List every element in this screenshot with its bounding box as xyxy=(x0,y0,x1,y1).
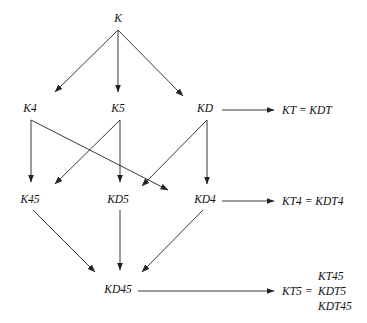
node-kd5: KD5 xyxy=(106,193,129,205)
edges-group xyxy=(31,30,207,272)
edge-k-to-kd xyxy=(118,30,183,96)
node-kd4: KD4 xyxy=(193,193,216,205)
edge-k45-to-kd45 xyxy=(33,210,95,272)
node-k5: K5 xyxy=(110,102,125,114)
equivalent-system-kdt45: KDT45 xyxy=(317,300,352,312)
equivalence-label-kd45: KT5 = xyxy=(281,285,312,297)
edge-k5-to-k45 xyxy=(55,120,120,184)
equivalent-system-kt45: KT45 xyxy=(317,270,344,282)
node-kd: KD xyxy=(196,102,214,114)
equivalence-label-kd: KT = KDT xyxy=(281,104,333,116)
node-k: K xyxy=(113,12,123,24)
equivalence-label-kd4: KT4 = KDT4 xyxy=(281,195,344,207)
modal-logic-lattice-diagram: KK4K5KDK45KD5KD4KD45 KT = KDTKT4 = KDT4K… xyxy=(0,0,367,323)
equivalent-system-kdt5: KDT5 xyxy=(317,285,346,297)
edge-kd4-to-kd45 xyxy=(142,210,203,272)
node-kd45: KD45 xyxy=(103,283,132,295)
edge-k-to-k4 xyxy=(55,30,118,92)
node-k4: K4 xyxy=(22,102,37,114)
equivalences-group: KT = KDTKT4 = KDT4KT5 =KT45KDT5KDT45 xyxy=(138,104,352,312)
edge-k4-to-kd4 xyxy=(31,120,168,190)
edge-kd-to-kd5 xyxy=(142,120,207,186)
node-k45: K45 xyxy=(19,193,39,205)
